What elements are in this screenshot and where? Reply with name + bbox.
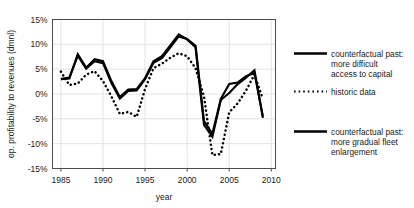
x-tick-label: 2010 [262, 175, 281, 185]
y-tick-label: -10% [28, 139, 48, 149]
y-tick-label: 10% [30, 39, 47, 49]
legend-item-2-line-2: enlargement [331, 147, 378, 157]
y-tick-label: -5% [32, 114, 48, 124]
x-tick-label: 1985 [51, 175, 70, 185]
y-tick-label: 15% [30, 15, 47, 25]
chart-figure: 15%10%5%0%-5%-10%-15% 198519901995200020… [0, 0, 414, 208]
y-axis-title: op. profitability to revenues (dmnl) [6, 30, 16, 158]
x-tick-label: 1995 [136, 175, 155, 185]
y-tick-label: 5% [35, 64, 48, 74]
legend-item-1-line-0: historic data [331, 87, 376, 97]
y-tick-label: -15% [28, 164, 48, 174]
legend-item-2-line-0: counterfactual past: [331, 127, 403, 137]
x-tick-label: 2000 [178, 175, 197, 185]
x-tick-label: 2005 [220, 175, 239, 185]
x-axis-title: year [156, 192, 173, 202]
profitability-line-chart: 15%10%5%0%-5%-10%-15% 198519901995200020… [0, 0, 414, 208]
legend-item-2-line-1: more gradual fleet [331, 137, 399, 147]
legend-item-0-line-1: more difficult [331, 59, 379, 69]
x-tick-label: 1990 [94, 175, 113, 185]
legend-item-0-line-0: counterfactual past: [331, 49, 403, 59]
y-tick-label: 0% [35, 89, 48, 99]
legend-item-0-line-2: access to capital [331, 69, 392, 79]
